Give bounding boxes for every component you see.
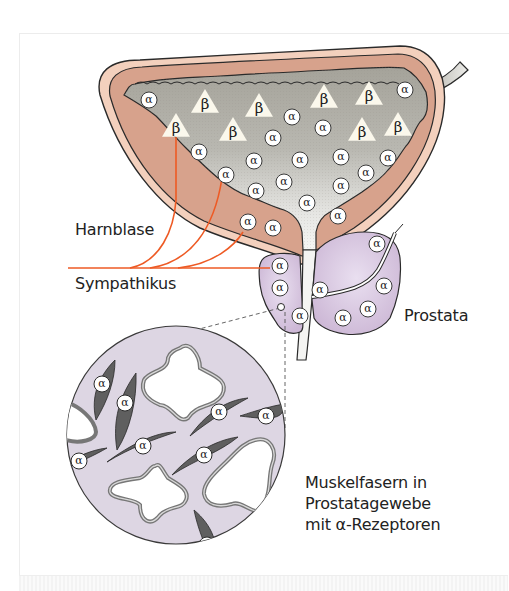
svg-text:β: β: [394, 118, 403, 136]
alpha-receptor-icon: α: [335, 310, 351, 326]
alpha-receptor-icon: α: [333, 178, 349, 194]
alpha-receptor-icon: α: [330, 208, 346, 224]
alpha-receptor-icon: α: [258, 408, 274, 424]
alpha-receptor-icon: α: [315, 120, 331, 136]
alpha-receptor-icon: α: [135, 438, 151, 454]
alpha-receptor-icon: α: [117, 395, 133, 411]
svg-text:α: α: [145, 93, 152, 106]
svg-text:β: β: [172, 119, 181, 137]
svg-text:α: α: [334, 209, 341, 222]
alpha-receptor-icon: α: [272, 280, 288, 296]
svg-text:α: α: [316, 283, 323, 296]
alpha-receptor-icon: α: [284, 109, 300, 125]
svg-text:α: α: [276, 259, 283, 272]
svg-text:α: α: [303, 196, 310, 209]
inset-tissue-view: αααααααα: [60, 326, 285, 565]
svg-text:α: α: [380, 279, 387, 292]
label-inset-caption: Muskelfasern in Prostatagewebe mit α-Rez…: [305, 472, 440, 535]
alpha-receptor-icon: α: [380, 150, 396, 166]
svg-text:α: α: [215, 405, 222, 418]
svg-text:β: β: [201, 95, 210, 113]
alpha-receptor-icon: α: [211, 404, 227, 420]
alpha-receptor-icon: α: [333, 149, 349, 165]
svg-text:α: α: [337, 179, 344, 192]
svg-text:β: β: [229, 123, 238, 141]
alpha-receptor-icon: α: [360, 301, 376, 317]
caption-line-2: Prostatagewebe: [305, 493, 440, 514]
alpha-receptor-icon: α: [299, 195, 315, 211]
alpha-receptor-icon: α: [246, 153, 262, 169]
svg-text:β: β: [365, 87, 374, 105]
alpha-receptor-icon: α: [196, 447, 212, 463]
label-sympathikus: Sympathikus: [75, 273, 176, 294]
alpha-receptor-icon: α: [141, 92, 157, 108]
alpha-receptor-icon: α: [272, 258, 288, 274]
svg-text:α: α: [362, 166, 369, 179]
svg-text:α: α: [280, 175, 287, 188]
svg-text:α: α: [401, 83, 408, 96]
alpha-receptor-icon: α: [292, 308, 308, 324]
alpha-receptor-icon: α: [265, 220, 281, 236]
alpha-receptor-icon: α: [248, 183, 264, 199]
alpha-receptor-icon: α: [292, 152, 308, 168]
alpha-receptor-icon: α: [376, 278, 392, 294]
svg-text:α: α: [75, 454, 82, 467]
svg-text:α: α: [195, 145, 202, 158]
alpha-receptor-icon: α: [218, 167, 234, 183]
svg-text:β: β: [255, 99, 264, 117]
svg-text:β: β: [320, 90, 329, 108]
svg-text:α: α: [222, 168, 229, 181]
label-harnblase: Harnblase: [75, 219, 154, 240]
svg-text:α: α: [98, 377, 105, 390]
alpha-receptor-icon: α: [312, 282, 328, 298]
svg-text:α: α: [296, 309, 303, 322]
alpha-receptor-icon: α: [199, 537, 215, 553]
svg-text:α: α: [269, 221, 276, 234]
svg-text:α: α: [250, 154, 257, 167]
alpha-receptor-icon: α: [358, 165, 374, 181]
svg-text:α: α: [244, 215, 251, 228]
label-prostata: Prostata: [404, 305, 468, 326]
alpha-receptor-icon: α: [369, 236, 385, 252]
svg-text:α: α: [121, 396, 128, 409]
caption-line-1: Muskelfasern in: [305, 472, 440, 493]
svg-text:α: α: [339, 311, 346, 324]
svg-text:β: β: [358, 123, 367, 141]
svg-text:α: α: [319, 121, 326, 134]
svg-text:α: α: [364, 302, 371, 315]
svg-text:α: α: [337, 150, 344, 163]
caption-line-3: mit α-Rezeptoren: [305, 514, 440, 535]
alpha-receptor-icon: α: [191, 144, 207, 160]
svg-text:α: α: [269, 131, 276, 144]
svg-text:α: α: [296, 153, 303, 166]
alpha-receptor-icon: α: [240, 214, 256, 230]
svg-text:α: α: [373, 237, 380, 250]
svg-text:α: α: [276, 281, 283, 294]
svg-text:α: α: [288, 110, 295, 123]
alpha-receptor-icon: α: [397, 82, 413, 98]
svg-text:α: α: [262, 409, 269, 422]
alpha-receptor-icon: α: [276, 174, 292, 190]
svg-text:α: α: [139, 439, 146, 452]
alpha-receptor-icon: α: [265, 130, 281, 146]
svg-text:α: α: [200, 448, 207, 461]
svg-text:α: α: [252, 184, 259, 197]
alpha-receptor-icon: α: [94, 376, 110, 392]
alpha-receptor-icon: α: [71, 453, 87, 469]
svg-text:α: α: [384, 151, 391, 164]
